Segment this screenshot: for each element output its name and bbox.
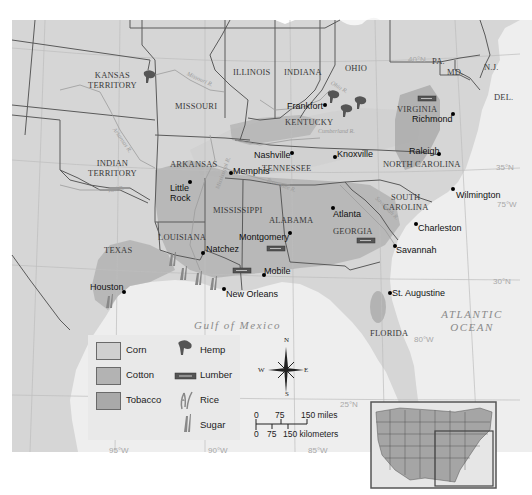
grid-label-40n: 40°N bbox=[408, 55, 426, 64]
city-label-memphis: Memphis bbox=[233, 166, 270, 176]
state-label-illinois: ILLINOIS bbox=[233, 67, 270, 77]
legend-label-tobacco: Tobacco bbox=[126, 394, 161, 405]
sugar-icon bbox=[106, 294, 113, 308]
city-label-knoxville: Knoxville bbox=[337, 149, 373, 159]
compass-w: W bbox=[258, 366, 265, 374]
city-label-montgomery: Montgomery bbox=[239, 232, 289, 242]
city-label-natchez: Natchez bbox=[206, 244, 239, 254]
hemp-icon bbox=[144, 70, 155, 83]
city-label-atlanta: Atlanta bbox=[333, 209, 361, 219]
state-label-del: DEL. bbox=[494, 92, 513, 102]
state-label-kentucky: KENTUCKY bbox=[285, 117, 333, 127]
sugar-icon bbox=[210, 276, 217, 290]
river-label-cumberland: Cumberland R. bbox=[318, 128, 355, 134]
state-label-north-carolina: NORTH CAROLINA bbox=[383, 159, 461, 169]
grid-label-90w: 90°W bbox=[208, 446, 228, 455]
state-label-nj: N.J. bbox=[484, 62, 499, 72]
scale-km-0: 0 bbox=[254, 429, 259, 439]
grid-label-25n: 25°N bbox=[340, 400, 358, 409]
legend-swatch-cotton bbox=[96, 367, 121, 385]
legend: Corn Cotton Tobacco Hemp Lumber Rice Sug… bbox=[88, 335, 240, 440]
sugar-icon bbox=[169, 252, 176, 266]
state-label-mississippi: MISSISSIPPI bbox=[213, 205, 262, 215]
state-label-missouri: MISSOURI bbox=[175, 101, 217, 111]
state-label-indiana: INDIANA bbox=[284, 67, 322, 77]
sugar-icon bbox=[195, 271, 202, 285]
city-label-houston: Houston bbox=[90, 282, 124, 292]
state-label-louisiana: LOUISIANA bbox=[158, 232, 206, 242]
compass-n: N bbox=[284, 336, 289, 344]
state-label-arkansas: ARKANSAS bbox=[170, 159, 217, 169]
compass-e: E bbox=[304, 366, 308, 374]
legend-label-sugar: Sugar bbox=[200, 419, 225, 430]
grid-label-30n: 30°N bbox=[493, 277, 511, 286]
city-label-little-rock: Little Rock bbox=[170, 183, 191, 203]
grid-label-85w: 85°W bbox=[308, 446, 328, 455]
legend-swatch-tobacco bbox=[96, 392, 121, 410]
city-dot-natchez bbox=[201, 251, 205, 255]
scale-km-150: 150 kilometers bbox=[283, 429, 338, 439]
sugar-icon bbox=[180, 266, 187, 280]
atlantic-ocean-label-1: ATLANTIC bbox=[422, 308, 522, 320]
sugar-icon bbox=[178, 412, 198, 434]
southern-economy-map: KANSAS TERRITORY MISSOURI ILLINOIS INDIA… bbox=[0, 0, 532, 495]
legend-label-lumber: Lumber bbox=[200, 369, 232, 380]
state-label-ohio: OHIO bbox=[345, 63, 367, 73]
compass-rose-icon bbox=[266, 345, 306, 395]
city-label-mobile: Mobile bbox=[264, 266, 291, 276]
city-dot-frankfort bbox=[323, 103, 327, 107]
city-label-wilmington: Wilmington bbox=[456, 190, 501, 200]
grid-label-35n: 35°N bbox=[496, 163, 514, 172]
lumber-icon bbox=[174, 371, 198, 381]
state-label-georgia: GEORGIA bbox=[333, 226, 373, 236]
city-label-nashville: Nashville bbox=[254, 150, 291, 160]
state-label-md: MD. bbox=[447, 67, 463, 77]
city-dot-wilmington bbox=[451, 187, 455, 191]
grid-label-75w: 75°W bbox=[497, 200, 517, 209]
city-label-savannah: Savannah bbox=[396, 245, 437, 255]
legend-label-cotton: Cotton bbox=[126, 369, 154, 380]
city-label-raleigh: Raleigh bbox=[409, 146, 440, 156]
compass-s: S bbox=[285, 390, 289, 398]
state-label-alabama: ALABAMA bbox=[269, 215, 313, 225]
state-label-florida: FLORIDA bbox=[370, 328, 408, 338]
city-label-new-orleans: New Orleans bbox=[226, 289, 278, 299]
legend-label-hemp: Hemp bbox=[200, 344, 225, 355]
legend-label-corn: Corn bbox=[126, 344, 147, 355]
city-label-richmond: Richmond bbox=[412, 114, 453, 124]
state-label-kansas-territory: KANSAS TERRITORY bbox=[88, 70, 137, 90]
state-label-texas: TEXAS bbox=[104, 245, 132, 255]
hemp-icon bbox=[341, 104, 352, 117]
hemp-icon bbox=[174, 339, 198, 357]
state-label-pa: PA. bbox=[432, 56, 445, 66]
state-label-indian-territory: INDIAN TERRITORY bbox=[88, 158, 137, 178]
city-label-charleston: Charleston bbox=[418, 223, 462, 233]
city-dot-nashville bbox=[290, 151, 294, 155]
legend-label-rice: Rice bbox=[200, 394, 219, 405]
hemp-icon bbox=[328, 90, 339, 103]
state-label-virginia: VIRGINIA bbox=[397, 104, 437, 114]
grid-label-80w: 80°W bbox=[414, 335, 434, 344]
scale-km-75: 75 bbox=[267, 429, 276, 439]
city-label-st-augustine: St. Augustine bbox=[392, 288, 445, 298]
city-label-frankfort: Frankfort bbox=[287, 101, 323, 111]
rice-icon bbox=[176, 389, 196, 411]
gulf-of-mexico-label: Gulf of Mexico bbox=[194, 319, 281, 331]
lumber-icon bbox=[418, 96, 436, 101]
grid-label-95w: 95°W bbox=[109, 446, 129, 455]
legend-swatch-corn bbox=[96, 342, 121, 360]
lumber-icon bbox=[357, 238, 375, 243]
atlantic-ocean-label-2: OCEAN bbox=[422, 321, 522, 333]
hemp-icon bbox=[355, 96, 366, 109]
lumber-icon bbox=[233, 268, 251, 273]
lumber-icon bbox=[267, 246, 285, 251]
